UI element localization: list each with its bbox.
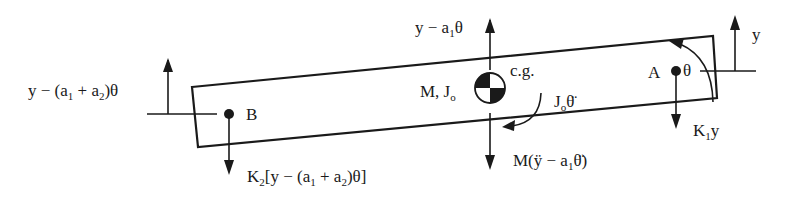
diagram-canvas: y − (a1 + a2)θ B K2[y − (a1 + a2)θ] y − … [0, 0, 789, 199]
inertia-moment-arrow-icon [512, 93, 541, 126]
inertia-force-label: M(ÿ − a1θ̈) [513, 151, 587, 172]
point-a-label: A [648, 63, 661, 82]
displacement-label-a: y [752, 25, 761, 44]
cg-label: c.g. [510, 61, 535, 80]
rotation-label: θ [683, 61, 691, 80]
spring-force-a-label: K1y [693, 121, 720, 142]
displacement-label-b: y − (a1 + a2)θ [28, 81, 118, 102]
displacement-label-cg: y − a1θ [415, 18, 463, 39]
point-b-label: B [246, 105, 257, 124]
cg-symbol-icon [475, 73, 505, 103]
mass-inertia-label: M, Jo [420, 82, 456, 103]
spring-force-b-label: K2[y − (a1 + a2)θ] [247, 167, 366, 188]
inertia-moment-label: Joθ̈ [554, 92, 577, 113]
free-body-diagram: y − (a1 + a2)θ B K2[y − (a1 + a2)θ] y − … [0, 0, 789, 199]
